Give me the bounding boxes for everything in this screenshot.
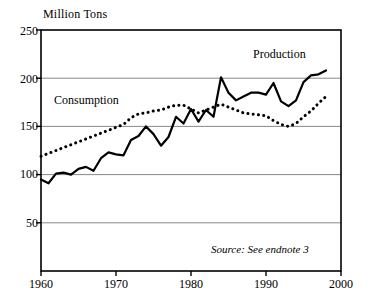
plot-frame — [41, 30, 341, 271]
series-line-production — [41, 70, 326, 183]
chart-container: Million Tons 250 200 150 100 50 1960 197… — [0, 0, 368, 304]
axis-ticks — [36, 30, 341, 276]
plot-area — [0, 0, 368, 304]
